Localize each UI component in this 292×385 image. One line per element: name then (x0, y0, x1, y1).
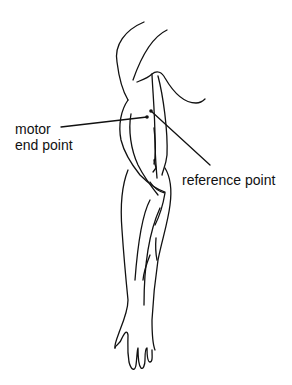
forearm-muscle-line-1 (135, 200, 150, 280)
biceps-line-right (158, 76, 167, 175)
forearm-muscle-line-3 (156, 238, 157, 260)
motor-end-point-label: motor end point (15, 121, 73, 153)
reference-point-leader (151, 111, 210, 165)
hand-outline (115, 332, 152, 369)
forearm-outline-right (152, 168, 171, 350)
reference-point-dot (149, 109, 153, 113)
forearm-muscle-line-2 (144, 208, 160, 305)
motor-end-point-dot (145, 115, 149, 119)
shoulder-outline (117, 22, 144, 100)
elbow-line (130, 114, 158, 195)
reference-point-label: reference point (182, 172, 275, 188)
shoulder-inner-curve (133, 30, 167, 80)
arm-outline-left (120, 100, 165, 192)
upper-arm-crease (137, 74, 152, 82)
biceps-outline (152, 72, 205, 103)
motor-end-point-leader (61, 117, 147, 127)
forearm-outline-left (115, 170, 128, 348)
arm-diagram (0, 0, 292, 385)
motor-end-point-label-line1: motor (15, 121, 73, 137)
motor-end-point-label-line2: end point (15, 137, 73, 153)
